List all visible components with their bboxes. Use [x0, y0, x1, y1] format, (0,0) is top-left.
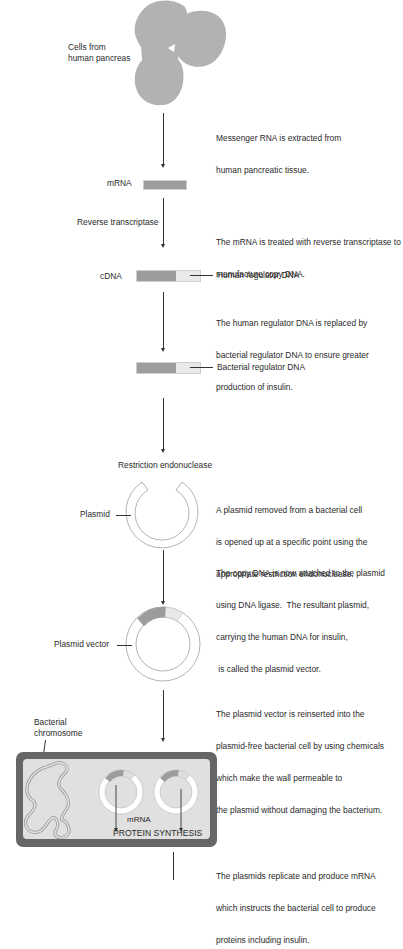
arrow-head-icon	[161, 601, 165, 605]
recombinant-dna-strand	[136, 362, 201, 374]
reverse-transcriptase-label: Reverse transcriptase	[77, 217, 158, 228]
step-ligate-line: using DNA ligase. The resultant plasmid,	[216, 600, 385, 611]
insulin-gene-segment	[137, 363, 176, 373]
bacterial-chromosome-label: Bacterial chromosome	[34, 717, 82, 738]
protein-synthesis-label: PROTEIN SYNTHESIS	[113, 828, 202, 839]
cdna-strand	[136, 270, 201, 282]
bacterial-chromosome-label-line2: chromosome	[34, 728, 82, 739]
step-reinsert-text: The plasmid vector is reinserted into th…	[216, 688, 384, 826]
step-extract-line: Messenger RNA is extracted from	[216, 133, 341, 144]
step-reinsert-line: The plasmid vector is reinserted into th…	[216, 709, 384, 720]
arrow-line	[163, 690, 164, 740]
step-replace-line: The human regulator DNA is replaced by	[216, 318, 369, 329]
cells-label-line2: human pancreas	[68, 53, 130, 64]
plasmid-vector-label: Plasmid vector	[54, 639, 109, 650]
step-replace-line: bacterial regulator DNA to ensure greate…	[216, 350, 369, 361]
bacterial-chromosome-label-line1: Bacterial	[34, 717, 82, 728]
bacterial-regulator-segment	[176, 363, 200, 373]
step-ligate-line: The copy DNA is now attached to the plas…	[216, 568, 385, 579]
mrna-strand	[143, 180, 187, 190]
pancreas-cell-right	[175, 11, 226, 67]
arrow-line	[163, 550, 164, 603]
arrow-line	[163, 292, 164, 350]
step-replicate-line: proteins including insulin.	[216, 935, 376, 946]
step-open-line: A plasmid removed from a bacterial cell	[216, 505, 367, 516]
plasmid-vector	[125, 606, 205, 686]
arrow-line	[163, 113, 164, 166]
cells-label-line1: Cells from	[68, 42, 130, 53]
step-replace-line: production of insulin.	[216, 382, 369, 393]
open-plasmid	[124, 474, 204, 554]
insulin-gene-segment	[137, 271, 176, 281]
arrow-line	[173, 852, 174, 880]
plasmid-in-bacterium-2	[154, 770, 198, 832]
arrow-line	[163, 198, 164, 246]
bacterial-regulator-label: Bacterial regulator DNA	[217, 362, 305, 373]
arrow-head-icon	[161, 164, 165, 168]
step-replicate-line: The plasmids replicate and produce mRNA	[216, 871, 376, 882]
step-reinsert-line: plasmid-free bacterial cell by using che…	[216, 741, 384, 752]
arrow-line	[163, 398, 164, 451]
cells-label: Cells from human pancreas	[68, 42, 130, 63]
step-reverse-line: The mRNA is treated with reverse transcr…	[216, 237, 401, 248]
mrna-label: mRNA	[107, 178, 132, 189]
step-open-line: is opened up at a specific point using t…	[216, 537, 367, 548]
leader-line	[116, 515, 131, 516]
step-extract-text: Messenger RNA is extracted from human pa…	[216, 112, 341, 186]
step-replicate-line: which instructs the bacterial cell to pr…	[216, 903, 376, 914]
step-replace-text: The human regulator DNA is replaced by b…	[216, 297, 369, 403]
human-regulator-segment	[176, 271, 200, 281]
step-extract-line: human pancreatic tissue.	[216, 165, 341, 176]
leader-line	[190, 275, 213, 276]
inner-mrna-label: mRNA	[127, 815, 151, 826]
mrna-segment	[144, 181, 186, 189]
step-reinsert-line: the plasmid without damaging the bacteri…	[216, 805, 384, 816]
step-replicate-text: The plasmids replicate and produce mRNA …	[216, 850, 376, 949]
arrow-head-icon	[161, 738, 165, 742]
arrow-head-icon	[161, 449, 165, 453]
cdna-label: cDNA	[100, 271, 122, 282]
pancreas-cells-illustration	[0, 0, 403, 110]
step-reinsert-line: which make the wall permeable to	[216, 773, 384, 784]
arrow-head-icon	[161, 244, 165, 248]
plasmid-label: Plasmid	[80, 509, 110, 520]
step-ligate-line: is called the plasmid vector.	[216, 664, 385, 675]
restriction-endonuclease-label: Restriction endonuclease	[118, 460, 212, 471]
leader-line	[190, 367, 213, 368]
leader-line	[117, 645, 132, 646]
step-ligate-text: The copy DNA is now attached to the plas…	[216, 547, 385, 685]
arrow-head-icon	[161, 348, 165, 352]
step-ligate-line: carrying the human DNA for insulin,	[216, 632, 385, 643]
human-regulator-label: Human regulator DNA	[217, 270, 299, 281]
